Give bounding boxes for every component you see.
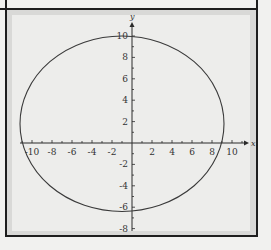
x-tick-label: 8 (209, 147, 215, 157)
x-tick-label: 2 (149, 147, 155, 157)
y-axis-arrow-icon (130, 22, 135, 27)
x-tick-label: -6 (68, 147, 77, 157)
y-tick-label: 6 (122, 74, 128, 84)
x-tick-label: 4 (169, 147, 175, 157)
y-tick-label: 8 (122, 52, 128, 62)
y-tick-label: -8 (119, 224, 128, 234)
x-tick-label: -2 (108, 147, 117, 157)
x-tick-label: 10 (226, 147, 238, 157)
axes: xy (20, 12, 256, 231)
tick-labels: -10-8-6-4-2246810108642-2-4-6-8 (25, 31, 238, 234)
x-axis-label: x (251, 139, 256, 148)
y-tick-label: -6 (119, 202, 128, 212)
y-tick-label: 2 (122, 117, 128, 127)
x-tick-label: -8 (48, 147, 57, 157)
x-tick-label: 6 (189, 147, 195, 157)
x-tick-label: -4 (88, 147, 97, 157)
y-tick-label: 4 (122, 95, 128, 105)
x-axis-arrow-icon (244, 141, 249, 146)
y-tick-label: -2 (119, 159, 128, 169)
chart-svg: xy -10-8-6-4-2246810108642-2-4-6-8 (0, 0, 271, 250)
y-tick-label: -4 (119, 181, 128, 191)
y-axis-label: y (129, 12, 135, 21)
